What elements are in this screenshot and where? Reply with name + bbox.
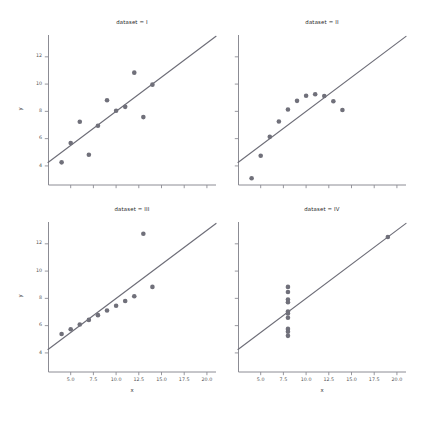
- facet-title-iv: dataset = IV: [238, 206, 406, 212]
- y-tick-label: 12: [26, 53, 42, 58]
- x-tick-label: 20.0: [385, 377, 409, 382]
- facet-panel-iii: dataset = III4681012y5.07.510.012.515.01…: [48, 222, 216, 372]
- scatter-points: [286, 235, 390, 338]
- y-tick-label: 6: [26, 135, 42, 140]
- y-tick-label: 12: [26, 240, 42, 245]
- x-tick-label: 7.5: [81, 377, 105, 382]
- x-tick-label: 20.0: [195, 377, 219, 382]
- x-tick-label: 7.5: [271, 377, 295, 382]
- x-axis-label: x: [48, 387, 216, 393]
- y-tick-label: 4: [26, 350, 42, 355]
- y-tick-label: 8: [26, 108, 42, 113]
- facet-title-iii: dataset = III: [48, 206, 216, 212]
- y-axis-label: y: [17, 286, 23, 306]
- x-tick-label: 15.0: [150, 377, 174, 382]
- x-tick-label: 12.5: [127, 377, 151, 382]
- x-tick-label: 10.0: [294, 377, 318, 382]
- facet-title-ii: dataset = II: [238, 19, 406, 25]
- x-tick-label: 17.5: [362, 377, 386, 382]
- facet-panel-iv: dataset = IV5.07.510.012.515.017.520.0x: [238, 222, 406, 372]
- x-tick-label: 15.0: [340, 377, 364, 382]
- y-tick-label: 10: [26, 268, 42, 273]
- x-tick-label: 5.0: [59, 377, 83, 382]
- x-axis-label: x: [238, 387, 406, 393]
- scatter-points: [249, 92, 344, 181]
- figure-canvas: dataset = I4681012ydataset = IIdataset =…: [0, 0, 425, 424]
- x-tick-label: 17.5: [172, 377, 196, 382]
- y-axis-label: y: [17, 99, 23, 119]
- facet-title-i: dataset = I: [48, 19, 216, 25]
- y-tick-label: 8: [26, 295, 42, 300]
- x-tick-label: 10.0: [104, 377, 128, 382]
- y-tick-label: 4: [26, 163, 42, 168]
- scatter-points: [59, 231, 154, 336]
- facet-grid: dataset = I4681012ydataset = IIdataset =…: [0, 0, 425, 424]
- y-tick-label: 6: [26, 322, 42, 327]
- x-tick-label: 5.0: [249, 377, 273, 382]
- y-tick-label: 10: [26, 81, 42, 86]
- facet-panel-i: dataset = I4681012y: [48, 35, 216, 185]
- x-tick-label: 12.5: [317, 377, 341, 382]
- facet-panel-ii: dataset = II: [238, 35, 406, 185]
